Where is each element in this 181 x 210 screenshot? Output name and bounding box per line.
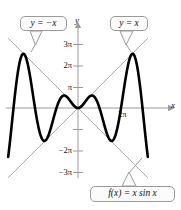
y-tick-label-pi: π bbox=[52, 83, 72, 92]
y-tick-label-neg-3pi: −3π bbox=[48, 168, 72, 177]
callout-y-equals-negative-x: y = −x bbox=[20, 16, 67, 31]
y-tick-label-3pi: 3π bbox=[52, 40, 72, 49]
plot-canvas bbox=[0, 0, 181, 210]
x-tick-label-2pi: 2π bbox=[118, 110, 138, 119]
y-axis-label: y bbox=[75, 16, 79, 25]
y-tick-label-neg-2pi: −2π bbox=[48, 146, 72, 155]
callout-function-definition: f(x) = x sin x bbox=[90, 186, 175, 202]
y-tick-label-2pi: 2π bbox=[52, 61, 72, 70]
figure-xsinx-graph: y x 3π 2π π −2π −3π 2π y = −x y = x f(x)… bbox=[0, 0, 181, 210]
x-axis-label: x bbox=[171, 101, 175, 110]
callout-y-equals-x: y = x bbox=[110, 16, 148, 31]
